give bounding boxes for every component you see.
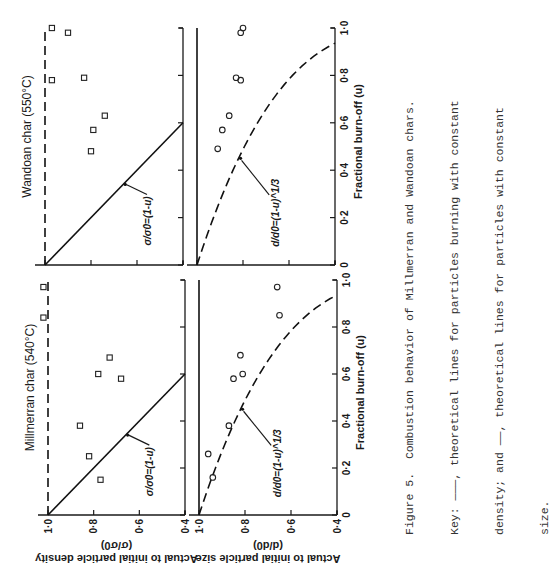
arrow-head-icon: [241, 408, 244, 411]
x-tick-label: 0·8: [339, 68, 350, 83]
x-tick-label: 0·6: [339, 115, 350, 130]
data-point-square: [118, 376, 123, 381]
data-point-square: [82, 75, 87, 80]
x-tick-label: 0·8: [341, 319, 352, 334]
caption-line: size.: [537, 15, 552, 535]
theory-annotation: d/d0=(1-u)^1/3: [272, 429, 283, 497]
x-tick-label: 0·4: [339, 163, 350, 178]
theory-line-constant-density: [197, 43, 335, 265]
y-axis-label: Actual to initial particle size: [196, 553, 341, 565]
data-point-square: [91, 127, 96, 132]
data-point-square: [65, 30, 70, 35]
panel-bottom-left: 1·00·80·60·400·20·40·60·81·0Fractional b…: [189, 272, 366, 565]
x-tick-label: 0·2: [339, 210, 350, 225]
y-tick-label: 1·0: [194, 519, 205, 534]
theory-annotation: σ/σ0=(1-u): [144, 446, 155, 496]
data-point-square: [77, 423, 82, 428]
y-tick-label: 0·4: [332, 519, 343, 534]
panel-title: Wandoan char (550°C): [20, 75, 34, 197]
data-point-square: [41, 284, 46, 289]
data-point-circle: [210, 475, 216, 481]
data-point-circle: [215, 146, 221, 152]
x-tick-label: 1·0: [339, 20, 350, 35]
theory-annotation: σ/σ0=(1-u): [142, 196, 153, 246]
caption-line: Key: ———, theoretical lines for particle…: [447, 15, 462, 535]
panel-top-left: 1·00·80·60·4Millmerran char (540°C)Actua…: [23, 280, 198, 565]
data-point-circle: [226, 113, 232, 119]
x-tick-label: 0·2: [341, 460, 352, 475]
x-tick-label: 1·0: [341, 272, 352, 287]
arrow-head-icon: [124, 183, 127, 186]
x-axis-label: Fractional burn-off (u): [354, 335, 366, 450]
y-axis-sublabel: (d/d0): [253, 540, 283, 552]
data-point-square: [41, 315, 46, 320]
data-point-circle: [238, 352, 244, 358]
x-tick-label: 0: [339, 262, 350, 268]
data-point-square: [98, 477, 103, 482]
annotation-arrow: [129, 435, 150, 445]
data-point-square: [88, 149, 93, 154]
y-axis-sublabel: (σ/σ0): [100, 540, 132, 552]
data-point-circle: [274, 284, 280, 290]
data-point-square: [49, 78, 54, 83]
x-tick-label: 0·6: [341, 366, 352, 381]
data-point-circle: [231, 376, 237, 382]
data-point-square: [87, 454, 92, 459]
data-point-circle: [205, 451, 211, 457]
theory-line-constant-size: [48, 374, 185, 515]
annotation-arrow: [242, 160, 270, 195]
theory-line-constant-density: [199, 295, 337, 515]
theory-line-constant-size: [45, 123, 183, 265]
y-tick-label: 0·4: [180, 519, 191, 534]
panel-title: Millmerran char (540°C): [23, 324, 37, 452]
data-point-circle: [277, 312, 283, 318]
annotation-arrow: [126, 184, 147, 194]
data-point-circle: [240, 25, 246, 31]
y-tick-label: 1·0: [43, 519, 54, 534]
y-axis-label: Actual to initial particle density: [34, 553, 197, 565]
y-tick-label: 0·8: [88, 519, 99, 534]
arrow-head-icon: [239, 157, 242, 160]
figure-caption: Figure 5. Combustion behavior of Millmer…: [372, 15, 553, 535]
data-point-square: [49, 25, 54, 30]
y-tick-label: 0·8: [240, 519, 251, 534]
y-tick-label: 0·6: [286, 519, 297, 534]
data-point-square: [96, 371, 101, 376]
data-point-circle: [220, 127, 226, 133]
caption-line: Figure 5. Combustion behavior of Millmer…: [402, 15, 417, 535]
data-point-circle: [226, 423, 232, 429]
theory-annotation: d/d0=(1-u)^1/3: [270, 179, 281, 247]
data-point-square: [107, 355, 112, 360]
arrow-head-icon: [126, 434, 129, 437]
data-point-circle: [233, 75, 239, 81]
annotation-arrow: [244, 411, 272, 445]
y-tick-label: 0·6: [134, 519, 145, 534]
panel-top-right: Wandoan char (550°C)σ/σ0=(1-u): [20, 25, 183, 265]
x-axis-label: Fractional burn-off (u): [352, 84, 364, 199]
caption-line: density; and ——, theoretical lines for p…: [492, 15, 507, 535]
panel-bottom-right: 00·20·40·60·81·0Fractional burn-off (u)d…: [187, 20, 364, 267]
x-tick-label: 0: [341, 512, 352, 518]
data-point-square: [102, 113, 107, 118]
data-point-circle: [240, 371, 246, 377]
x-tick-label: 0·4: [341, 413, 352, 428]
